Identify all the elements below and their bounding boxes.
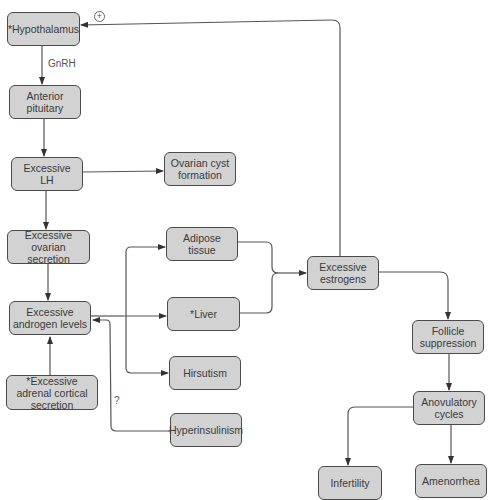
node-excessive-estrogens: Excessive estrogens <box>307 256 379 290</box>
node-amenorrhea: Amenorrhea <box>415 464 487 498</box>
node-excessive-androgen-levels: Excessive androgen levels <box>9 301 91 335</box>
node-excessive-adrenal-cortical-secretion: *Excessive adrenal cortical secretion <box>6 375 98 410</box>
node-hypothalamus: *Hypothalamus <box>7 12 80 46</box>
node-anterior-pituitary: Anterior pituitary <box>9 85 81 119</box>
positive-feedback-icon: + <box>94 11 105 22</box>
node-anovulatory-cycles: Anovulatory cycles <box>413 391 485 425</box>
node-hirsutism: Hirsutism <box>169 356 241 390</box>
node-adipose-tissue: Adipose tissue <box>166 227 238 261</box>
gnrh-label: GnRH <box>48 58 76 69</box>
node-liver: *Liver <box>167 297 240 331</box>
question-label: ? <box>114 395 120 406</box>
node-ovarian-cyst-formation: Ovarian cyst formation <box>164 152 236 186</box>
node-excessive-lh: Excessive LH <box>11 157 83 191</box>
node-excessive-ovarian-secretion: Excessive ovarian secretion <box>7 230 90 264</box>
node-follicle-suppression: Follicle suppression <box>412 320 484 354</box>
node-hyperinsulinism: Hyperinsulinism <box>170 413 242 447</box>
node-infertility: Infertility <box>318 466 382 500</box>
